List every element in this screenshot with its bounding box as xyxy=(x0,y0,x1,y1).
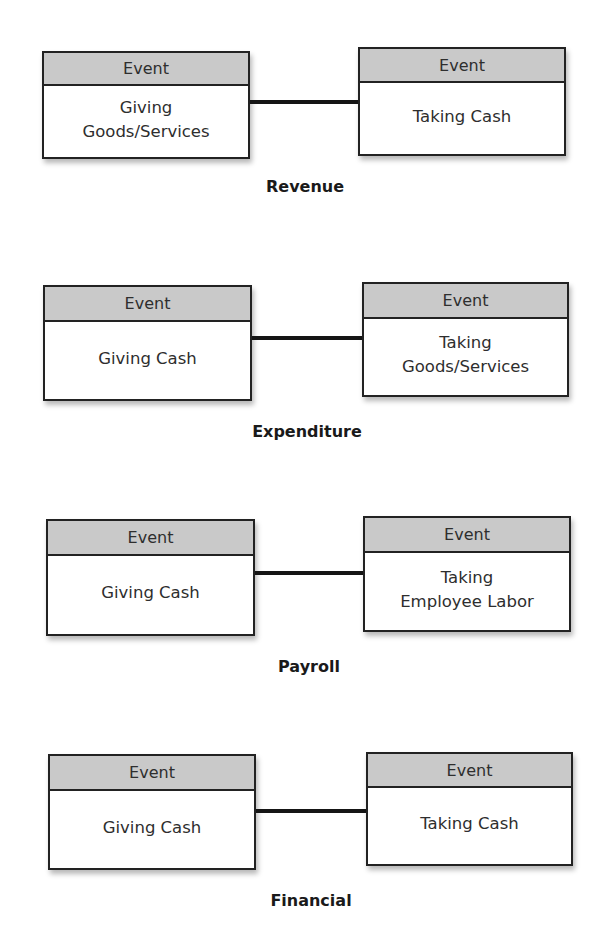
revenue-right-event-box: Event Taking Cash xyxy=(358,47,566,156)
payroll-right-event-box: Event Taking Employee Labor xyxy=(363,516,571,632)
revenue-label: Revenue xyxy=(266,177,344,196)
event-header: Event xyxy=(50,756,254,791)
payroll-connector-line xyxy=(255,571,363,575)
event-body: Giving Cash xyxy=(45,322,250,399)
financial-connector-line xyxy=(256,809,366,813)
revenue-left-event-box: Event Giving Goods/Services xyxy=(42,51,250,159)
event-header: Event xyxy=(48,521,253,556)
event-body: Giving Cash xyxy=(50,791,254,868)
payroll-label: Payroll xyxy=(278,657,340,676)
event-header: Event xyxy=(45,287,250,322)
event-header: Event xyxy=(360,49,564,83)
expenditure-label: Expenditure xyxy=(252,422,362,441)
expenditure-right-event-box: Event Taking Goods/Services xyxy=(362,282,569,397)
financial-label: Financial xyxy=(270,891,351,910)
event-header: Event xyxy=(44,53,248,86)
financial-left-event-box: Event Giving Cash xyxy=(48,754,256,870)
event-body: Giving Cash xyxy=(48,556,253,634)
event-header: Event xyxy=(365,518,569,553)
event-header: Event xyxy=(364,284,567,319)
event-body: Giving Goods/Services xyxy=(44,86,248,157)
expenditure-connector-line xyxy=(252,336,362,340)
event-header: Event xyxy=(368,754,571,788)
payroll-left-event-box: Event Giving Cash xyxy=(46,519,255,636)
expenditure-left-event-box: Event Giving Cash xyxy=(43,285,252,401)
revenue-connector-line xyxy=(250,100,358,104)
event-body: Taking Cash xyxy=(360,83,564,154)
event-body: Taking Cash xyxy=(368,788,571,864)
financial-right-event-box: Event Taking Cash xyxy=(366,752,573,866)
event-body: Taking Employee Labor xyxy=(365,553,569,630)
event-body: Taking Goods/Services xyxy=(364,319,567,395)
